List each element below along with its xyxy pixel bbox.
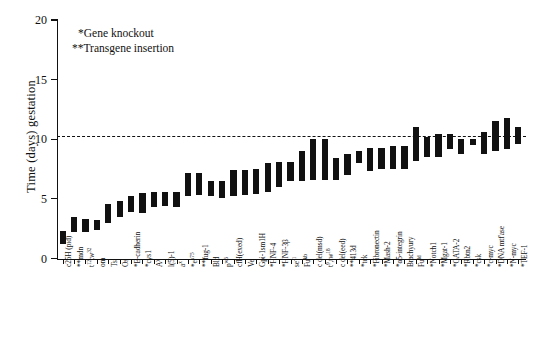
bar: [162, 192, 168, 206]
x-axis-category-label: om: [99, 258, 106, 267]
bar: [117, 201, 123, 217]
x-axis-category-label: *HNF-4: [270, 243, 277, 267]
bar: [71, 217, 77, 233]
bar: [242, 170, 248, 195]
x-axis-category-label: l(5)-1: [168, 251, 175, 267]
x-axis-category-label: *c-myc: [487, 245, 494, 267]
bar: [378, 148, 384, 169]
bar: [447, 134, 453, 148]
x-axis-category-label: *HNF-3β: [282, 239, 289, 267]
x-axis-category-label: Gpi-1sm1H: [259, 233, 266, 267]
bar: [390, 146, 396, 169]
x-axis-category-label: **mdn: [77, 247, 84, 267]
annotation-legend: *Gene knockout **Transgene insertion: [78, 26, 174, 55]
bar: [276, 162, 282, 187]
bar: [185, 173, 191, 197]
x-axis-category-label: Fukb: [304, 254, 311, 267]
x-axis-category-label: *E-cadherin: [134, 232, 141, 267]
bar: [310, 139, 316, 180]
bar: [208, 181, 214, 197]
y-axis-tick: [51, 198, 58, 199]
bar: [299, 151, 305, 181]
x-axis-tick: [393, 259, 394, 264]
x-axis-tick: [74, 259, 75, 264]
x-axis-category-label: *α5-integrin: [396, 231, 403, 267]
bar: [196, 173, 202, 196]
bar: [401, 146, 407, 169]
x-axis-category-label: **fug-1: [202, 244, 209, 267]
x-axis-category-label: *N-myc: [510, 243, 517, 267]
x-axis-category-label: t9,tw18: [327, 248, 334, 267]
x-axis-category-label: *Mash-2: [384, 241, 391, 267]
bar: [105, 204, 111, 223]
x-axis-tick: [245, 259, 246, 264]
x-axis-category-label: *Mgat-1: [441, 242, 448, 267]
bar: [367, 148, 373, 172]
y-axis-tick-label: 0: [23, 253, 47, 265]
x-axis-category-label: c del(msd): [316, 237, 323, 267]
figure-bar-chart: Time (days) gestation 05101520 c25H (pid…: [0, 0, 535, 361]
x-axis-category-label: ax: [179, 261, 186, 267]
x-axis-category-label: *Rbtn2: [464, 246, 471, 267]
bar: [253, 169, 259, 194]
bar: [344, 154, 350, 175]
x-axis-category-label: *Notch1: [430, 242, 437, 267]
x-axis-category-label: se-1: [293, 257, 300, 267]
x-axis-category-label: pw6: [225, 257, 232, 267]
x-axis-category-label: cfH(exed): [236, 238, 243, 267]
bar: [333, 158, 339, 179]
annotation-transgene-insertion: **Transgene insertion: [72, 41, 174, 56]
x-axis-category-label: *cys1: [145, 250, 152, 267]
bar: [458, 139, 464, 153]
bar: [481, 132, 487, 153]
x-axis-category-label: Os: [122, 259, 129, 267]
bar: [356, 151, 362, 163]
bar: [424, 137, 430, 157]
bar: [219, 181, 225, 198]
x-axis-category-label: Fuld: [418, 255, 425, 267]
x-axis-category-label: **413d: [350, 245, 357, 267]
bar: [173, 192, 179, 208]
bar: [504, 118, 510, 149]
x-axis-category-label: Ts: [111, 260, 118, 267]
bar: [82, 219, 88, 232]
x-axis-category-label: *DNA mtf'ase: [498, 226, 505, 267]
x-axis-category-label: Ay: [156, 259, 163, 267]
x-axis-tick: [336, 259, 337, 264]
bar: [470, 139, 476, 145]
y-axis-tick: [51, 19, 58, 20]
x-axis-tick: [131, 259, 132, 264]
y-axis-tick-label: 15: [23, 74, 47, 86]
x-axis-tick: [507, 259, 508, 264]
bar: [94, 220, 100, 230]
x-axis-category-label: *GATA-2: [453, 239, 460, 267]
x-axis-category-label: *ex75: [191, 253, 198, 267]
bar: [435, 134, 441, 157]
x-axis-category-label: c25H (pid): [65, 236, 72, 267]
y-axis-tick-label: 5: [23, 193, 47, 205]
bar: [139, 193, 145, 213]
x-axis-category-label: Ve: [248, 259, 255, 267]
x-axis-category-label: *Fibronectin: [373, 230, 380, 267]
reference-line-10-3: [57, 136, 526, 137]
x-axis-category-label: Bld: [213, 257, 220, 267]
bar: [265, 163, 271, 192]
x-axis-category-label: t12tw32: [88, 248, 95, 267]
x-axis-category-label: *csk: [475, 254, 482, 267]
x-axis-tick: [279, 259, 280, 264]
y-axis-tick-label: 10: [23, 133, 47, 145]
y-axis-tick: [51, 139, 58, 140]
bar: [492, 121, 498, 151]
bar: [287, 162, 293, 181]
bar: [515, 127, 521, 144]
y-axis-tick-label: 20: [23, 14, 47, 26]
bar: [230, 170, 236, 196]
bar: [151, 192, 157, 208]
annotation-gene-knockout: *Gene knockout: [78, 26, 174, 41]
x-axis-category-label: *tck: [361, 255, 368, 267]
x-axis-category-label: Brachyury: [407, 237, 414, 267]
x-axis-tick: [450, 259, 451, 264]
bar: [413, 127, 419, 160]
bar: [128, 196, 134, 212]
x-axis-category-label: *TEF-1: [521, 245, 528, 267]
